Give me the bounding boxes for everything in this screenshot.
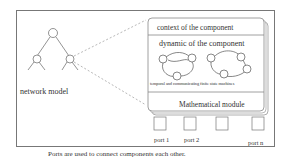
zoom-lines: [74, 20, 146, 105]
fsm-state: [220, 70, 228, 78]
port-3-box: [216, 117, 228, 130]
port-2-box: [184, 117, 196, 130]
port-1-box: [154, 117, 166, 130]
tree-edge: [37, 37, 50, 56]
fsm-state: [207, 54, 215, 62]
port-n-label: port n: [248, 139, 263, 146]
fsm-state: [243, 65, 251, 73]
tree-node-right: [66, 55, 74, 63]
ports: [154, 117, 264, 130]
caption: Ports are used to connect components eac…: [48, 150, 186, 158]
tree-node-root: [49, 29, 58, 38]
network-model-label: network model: [20, 87, 68, 96]
tree-edge: [62, 62, 67, 70]
fsm-state: [173, 72, 181, 80]
port-2-label: port 2: [184, 136, 199, 143]
zoom-line-bottom: [74, 62, 146, 105]
fsm-state: [159, 55, 167, 63]
context-label: context of the component: [157, 23, 233, 32]
port-n-box: [252, 117, 264, 130]
network-tree: [28, 29, 78, 71]
math-module-label: Mathematical module: [179, 100, 245, 109]
fsm-label: temporal and communicating finite state …: [150, 81, 234, 86]
tree-edge: [72, 62, 78, 70]
fsm-state: [188, 54, 196, 62]
port-1-label: port 1: [154, 136, 169, 143]
tree-node-left: [33, 55, 41, 63]
fsm-state: [237, 53, 245, 61]
zoom-line-top: [74, 20, 146, 56]
tree-edge: [39, 62, 45, 70]
tree-edge: [56, 37, 69, 56]
dynamic-label: dynamic of the component: [159, 39, 245, 48]
tree-edge: [28, 62, 34, 70]
